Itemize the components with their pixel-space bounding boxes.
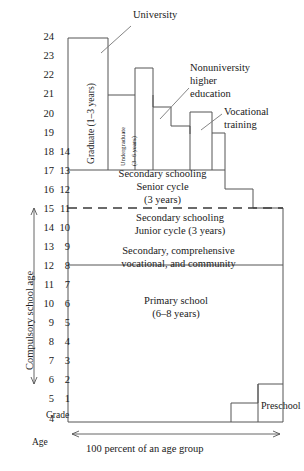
- footer-caption: 100 percent of an age group: [86, 443, 204, 454]
- undergraduate-block-label-line2: (3–6 years): [130, 136, 137, 166]
- university-leader-line: [101, 26, 131, 53]
- secondary-senior-label-line3: (3 years): [85, 194, 240, 206]
- secondary-junior-label-line2: Junior cycle (3 years): [80, 225, 280, 237]
- age-tick-24: 24: [38, 32, 54, 43]
- secondary-senior-label-line2: Senior cycle: [85, 181, 240, 193]
- age-tick-8: 8: [38, 337, 54, 348]
- age-tick-11: 11: [38, 280, 54, 291]
- age-tick-22: 22: [38, 70, 54, 81]
- university-label: University: [133, 9, 177, 21]
- age-tick-20: 20: [38, 109, 54, 120]
- age-tick-21: 21: [38, 89, 54, 100]
- grade-tick-8: 8: [56, 261, 70, 272]
- grade-tick-1: 1: [56, 394, 70, 405]
- age-tick-5: 5: [38, 394, 54, 405]
- age-tick-15: 15: [38, 204, 54, 215]
- nonuniversity-step-outline: [153, 95, 190, 134]
- age-tick-12: 12: [38, 261, 54, 272]
- age-axis-label: Age: [32, 437, 48, 447]
- age-tick-16: 16: [38, 185, 54, 196]
- secondary-senior-label-line1: Secondary schooling: [85, 168, 240, 180]
- grade-tick-12: 12: [56, 185, 70, 196]
- grade-tick-3: 3: [56, 356, 70, 367]
- age-tick-23: 23: [38, 51, 54, 62]
- nonuniversity-label-line3: education: [190, 88, 231, 100]
- age-tick-18: 18: [38, 147, 54, 158]
- age-tick-9: 9: [38, 318, 54, 329]
- grade-tick-2: 2: [56, 375, 70, 386]
- undergraduate-block-label-line1: Undergraduate: [119, 127, 126, 166]
- preschool-label: Preschool: [261, 400, 300, 411]
- vocational-step-outline: [190, 112, 225, 170]
- secondary-junior-label-line1: Secondary schooling: [80, 212, 280, 224]
- graduate-block-label: Graduate (1–3 years): [85, 83, 96, 164]
- age-tick-17: 17: [38, 166, 54, 177]
- grade-tick-9: 9: [56, 242, 70, 253]
- age-tick-14: 14: [38, 223, 54, 234]
- secondary-types-label-line1: Secondary, comprehensive: [76, 245, 281, 257]
- grade-tick-11: 11: [56, 204, 70, 215]
- grade-tick-6: 6: [56, 299, 70, 310]
- grade-tick-4: 4: [56, 337, 70, 348]
- education-system-diagram: 24 23 22 21 20 19 18 17 16 15 14 13 12 1…: [0, 0, 304, 471]
- compulsory-school-age-label: Compulsory school age: [24, 271, 35, 370]
- nonuniversity-label-line1: Nonuniversity: [190, 62, 250, 74]
- age-tick-6: 6: [38, 375, 54, 386]
- primary-school-label-line1: Primary school: [76, 295, 276, 307]
- vocational-label-line1: Vocational: [224, 106, 269, 118]
- secondary-types-label-line2: vocational, and community: [76, 258, 281, 270]
- width-arrow: [72, 431, 280, 437]
- grade-tick-13: 13: [56, 166, 70, 177]
- grade-tick-14: 14: [56, 147, 70, 158]
- nonuniversity-label-line2: higher: [190, 75, 217, 87]
- age-tick-19: 19: [38, 128, 54, 139]
- age-tick-7: 7: [38, 356, 54, 367]
- undergraduate-block-outline: [108, 68, 153, 95]
- age-tick-10: 10: [38, 299, 54, 310]
- grade-axis-label: Grade: [46, 410, 69, 420]
- nonuniversity-leader-line: [160, 88, 189, 119]
- vocational-label-line2: training: [224, 119, 257, 131]
- grade-tick-10: 10: [56, 223, 70, 234]
- age-tick-13: 13: [38, 242, 54, 253]
- primary-school-label-line2: (6–8 years): [76, 308, 276, 320]
- grade-tick-5: 5: [56, 318, 70, 329]
- grade-tick-7: 7: [56, 280, 70, 291]
